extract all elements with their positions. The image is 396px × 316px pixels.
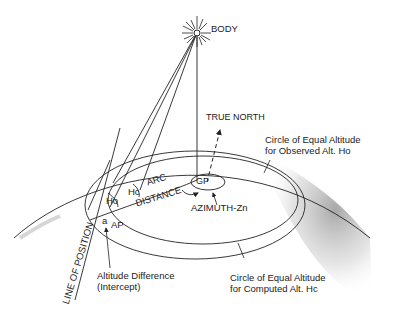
- computed-circle-label-line2: for Computed Alt. Hc: [230, 283, 318, 294]
- azimuth-arc: [182, 190, 198, 195]
- intercept-label-line2: (Intercept): [97, 281, 140, 292]
- diagram-graphic: [0, 0, 396, 316]
- azimuth-label: AZIMUTH-Zn: [191, 202, 247, 213]
- ap-label: AP: [111, 219, 124, 230]
- body-label: BODY: [211, 23, 238, 34]
- hc-label: Hc: [128, 186, 140, 197]
- computed-circle-label-line1: Circle of Equal Altitude: [230, 272, 326, 283]
- celestial-navigation-diagram: BODY TRUE NORTH Circle of Equal Altitude…: [0, 0, 396, 316]
- observed-circle-label-line2: for Observed Alt. Ho: [265, 145, 351, 156]
- intercept-label-line1: Altitude Difference: [97, 270, 174, 281]
- observed-circle-label-line1: Circle of Equal Altitude: [265, 134, 361, 145]
- gp-label: GP: [196, 176, 209, 187]
- ho-label: Ho: [106, 195, 118, 206]
- a-label: a: [102, 215, 107, 226]
- intercept-leader: [106, 228, 110, 268]
- body-star-icon: [182, 16, 211, 47]
- true-north-label: TRUE NORTH: [206, 112, 265, 123]
- computed-leader: [238, 243, 244, 258]
